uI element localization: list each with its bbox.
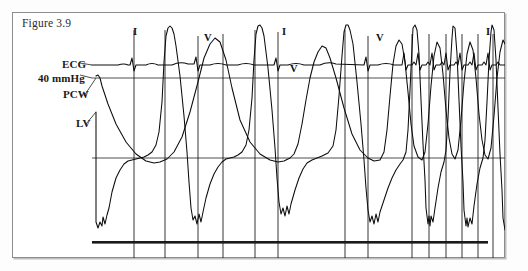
- wave-marker-a-3: I: [486, 26, 490, 37]
- wave-marker-a-1: I: [133, 26, 137, 37]
- trace-label-pcw: PCW: [63, 88, 89, 100]
- lv-trace: [96, 25, 505, 230]
- pcw-trace: [96, 38, 505, 163]
- trace-label-lv: LV: [76, 117, 90, 129]
- trace-label-ecg: ECG: [62, 58, 86, 70]
- wave-marker-v-3: V: [376, 32, 384, 43]
- trace-label-scale-40mmhg: 40 mmHg: [38, 72, 85, 84]
- wave-marker-v-1: V: [204, 32, 212, 43]
- wave-marker-v-2: V: [290, 63, 298, 74]
- wave-marker-a-2: I: [282, 26, 286, 37]
- ecg-trace: [92, 53, 505, 71]
- hemodynamic-tracing: [12, 12, 505, 258]
- figure-container: Figure 3.9: [0, 0, 528, 271]
- time-scale-bar: [92, 241, 488, 244]
